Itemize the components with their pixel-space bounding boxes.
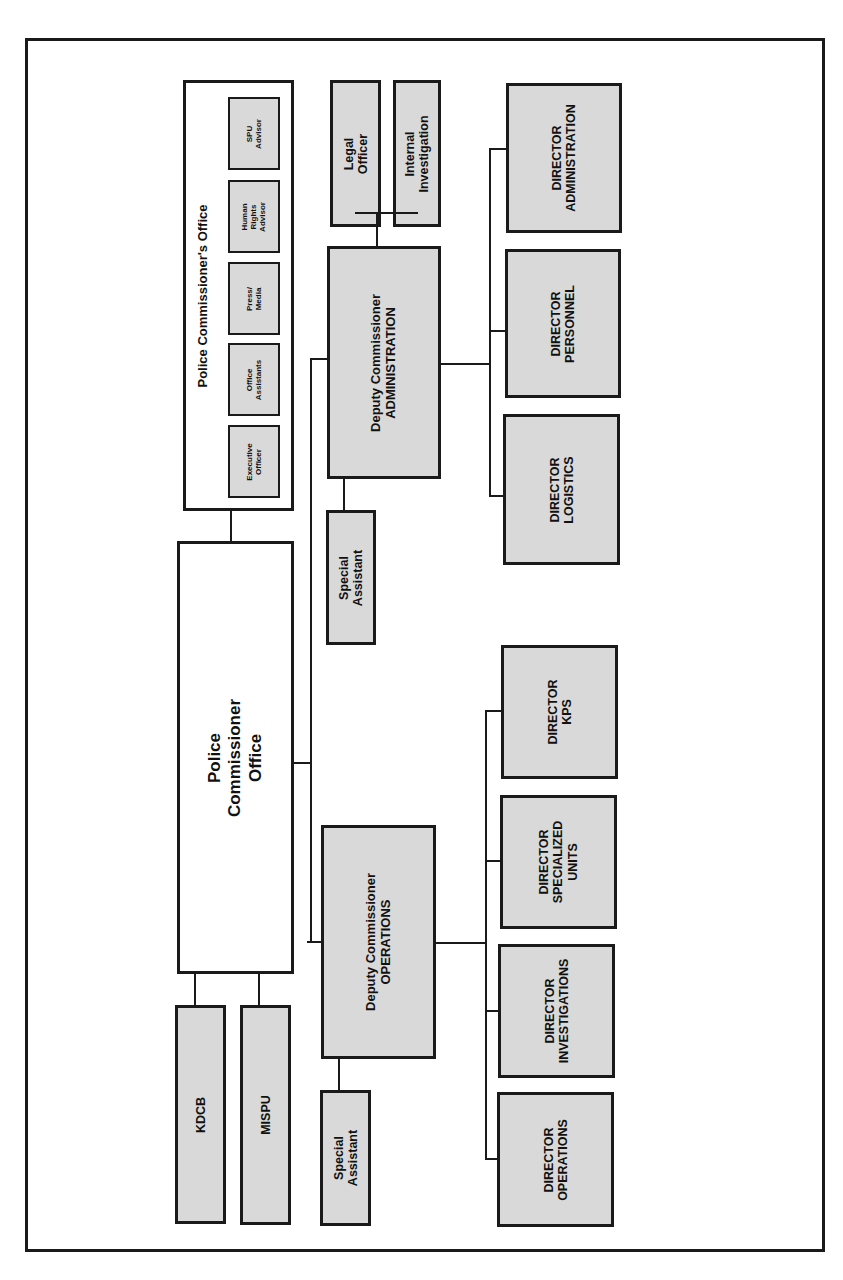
box-director-administration: DIRECTOR ADMINISTRATION [506,83,622,233]
connector-pco-group [230,511,232,541]
box-internal-investigation: Internal Investigation [393,80,441,227]
box-legal-officer: Legal Officer [330,80,381,227]
connector-dir-investigations [485,1010,498,1012]
connector-kdcb [194,974,196,1005]
box-director-personnel: DIRECTOR PERSONNEL [505,249,621,398]
connector-advisors-bar [355,212,418,214]
box-director-logistics: DIRECTOR LOGISTICS [503,414,620,565]
connector-pco-trunk [294,762,311,764]
box-police-commissioner-office: Police Commissioner Office [177,541,294,974]
box-spu-advisor: SPU Advisor [228,97,280,170]
box-mispu: MISPU [240,1005,291,1225]
box-press-media: Press/ Media [228,262,280,335]
box-special-assistant-admin: Special Assistant [326,510,376,645]
box-director-specialized-units: DIRECTOR SPECIALIZED UNITS [500,795,617,929]
connector-dir-personnel [489,330,505,332]
commissioners-office-title: Police Commissioner's Office [196,204,211,387]
connector-dir-administration [489,148,506,150]
box-office-assistants: Office Assistants [228,343,280,416]
connector-mispu [258,974,260,1005]
box-human-rights-advisor: Human Rights Advisor [228,180,280,253]
connector-dir-specialized [485,860,500,862]
box-deputy-commissioner-administration: Deputy Commissioner ADMINISTRATION [327,246,441,479]
connector-admin-special [343,479,345,510]
connector-dir-logistics [489,495,504,497]
connector-ops-special [338,1059,340,1090]
box-director-kps: DIRECTOR KPS [501,645,618,779]
connector-admin-directors [441,363,490,365]
connector-admin-advisors [376,212,378,246]
connector-ops-directors [436,942,486,944]
connector-trunk-ops [307,941,321,943]
box-director-operations: DIRECTOR OPERATIONS [497,1092,614,1227]
box-deputy-commissioner-operations: Deputy Commissioner OPERATIONS [321,825,436,1059]
connector-ops-director-trunk [485,710,487,1158]
connector-trunk [310,358,312,942]
box-executive-officer: Executive Officer [228,425,280,498]
box-director-investigations: DIRECTOR INVESTIGATIONS [498,944,615,1078]
connector-dir-operations [485,1158,497,1160]
connector-trunk-admin [310,358,327,360]
connector-dir-kps [485,710,501,712]
box-special-assistant-ops: Special Assistant [320,1090,371,1226]
connector-admin-director-trunk [489,148,491,495]
box-kdcb: KDCB [175,1005,226,1224]
